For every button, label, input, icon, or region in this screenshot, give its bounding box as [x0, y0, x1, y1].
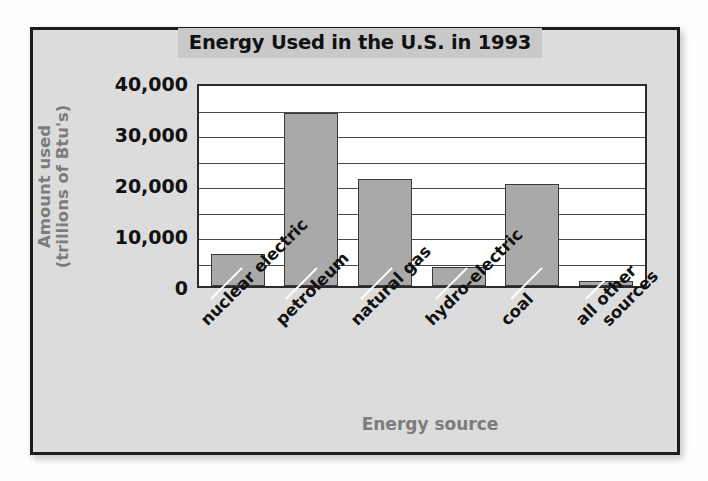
- y-axis-title: Amount used (trillions of Btu's): [36, 76, 73, 296]
- page-canvas: Energy Used in the U.S. in 1993 Amount u…: [0, 0, 708, 481]
- y-axis-tick-label: 40,000: [96, 73, 188, 95]
- chart-title: Energy Used in the U.S. in 1993: [178, 28, 542, 58]
- bar-slot: [500, 86, 564, 286]
- y-axis-tick-label: 30,000: [96, 124, 188, 146]
- y-axis-tick-labels: 010,00020,00030,00040,000: [96, 72, 192, 300]
- y-axis-tick-label: 20,000: [96, 175, 188, 197]
- x-axis-title: Energy source: [310, 414, 550, 434]
- y-axis-title-line-1: Amount used: [36, 76, 54, 296]
- y-axis-title-line-2: (trillions of Btu's): [54, 76, 72, 296]
- bar-slot: [574, 86, 638, 286]
- y-axis-tick-label: 0: [96, 277, 188, 299]
- y-axis-tick-label: 10,000: [96, 226, 188, 248]
